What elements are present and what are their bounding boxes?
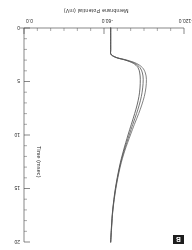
potential-tick-label: -60.0	[102, 18, 113, 24]
potential-major-ticks	[24, 28, 184, 34]
panel-label-badge: B	[173, 235, 184, 244]
trace-line	[111, 28, 147, 242]
time-tick-label: 10	[14, 132, 20, 138]
trace-group	[111, 28, 147, 242]
potential-tick-label: -120.0	[179, 18, 192, 24]
time-tick-label: 0	[17, 25, 20, 31]
rotated-plot-container: Membrane Potential (mV) Time (msec) -120…	[0, 0, 192, 250]
plot-area: Membrane Potential (mV) Time (msec) -120…	[0, 0, 192, 250]
potential-axis-title: Membrane Potential (mV)	[30, 8, 162, 14]
time-tick-label: 20	[14, 239, 20, 245]
potential-tick-label: 0.0	[26, 18, 33, 24]
figure-panel-b: Membrane Potential (mV) Time (msec) -120…	[0, 0, 192, 250]
time-tick-label: 15	[14, 186, 20, 192]
plot-canvas	[0, 0, 192, 250]
time-axis-title: Time (msec)	[36, 132, 42, 192]
time-tick-label: 5	[17, 79, 20, 85]
